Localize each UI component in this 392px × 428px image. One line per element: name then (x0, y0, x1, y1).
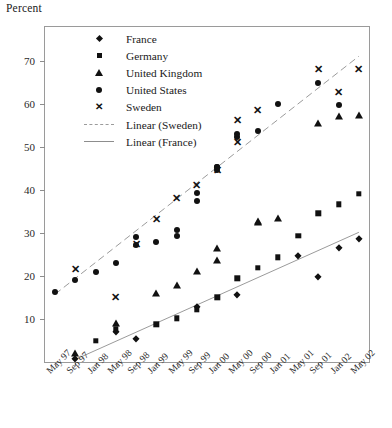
data-point-united-states (153, 239, 159, 245)
data-point-united-states (174, 227, 180, 233)
y-axis-tick (40, 104, 45, 105)
square-marker-icon (97, 53, 102, 58)
data-point-united-kingdom (173, 281, 181, 288)
data-point-germany (154, 322, 159, 327)
data-point-united-states (255, 128, 261, 134)
data-point-sweden: ✕ (354, 67, 363, 73)
data-point-sweden: ✕ (253, 108, 262, 114)
data-point-sweden: ✕ (172, 196, 181, 202)
legend-item-germany[interactable]: Germany (84, 47, 234, 64)
data-point-united-kingdom (213, 244, 221, 251)
data-point-united-kingdom (152, 289, 160, 296)
data-point-sweden: ✕ (132, 242, 141, 248)
x-marker-icon: ✕ (95, 103, 103, 111)
data-point-germany (113, 327, 118, 332)
y-axis-tick-label: 70 (5, 55, 35, 67)
y-axis-tick-label: 10 (5, 313, 35, 325)
data-point-sweden: ✕ (233, 140, 242, 146)
data-point-united-kingdom (355, 112, 363, 119)
data-point-united-states (113, 260, 119, 266)
legend-item-label: Linear (Sweden) (114, 119, 202, 131)
data-point-united-kingdom (254, 218, 262, 225)
y-axis-tick-label: 30 (5, 227, 35, 239)
data-point-united-states (93, 269, 99, 275)
y-axis-title: Percent (6, 2, 42, 14)
chart-root: Percent 10203040506070✕✕✕✕✕✕✕✕✕✕✕✕✕ Fran… (0, 0, 392, 428)
legend-item-label: France (114, 33, 157, 45)
data-point-germany (214, 294, 219, 299)
y-axis-tick-label: 60 (5, 98, 35, 110)
legend-item-label: United States (114, 84, 187, 96)
data-point-germany (316, 211, 321, 216)
data-point-united-states (234, 131, 240, 137)
legend-item-linear-sweden[interactable]: Linear (Sweden) (84, 116, 234, 133)
data-point-sweden: ✕ (314, 67, 323, 73)
data-point-sweden: ✕ (152, 217, 161, 223)
data-point-sweden: ✕ (111, 295, 120, 301)
solid-line-icon (84, 141, 114, 142)
data-point-sweden: ✕ (213, 168, 222, 174)
circle-marker-icon (96, 87, 102, 93)
data-point-germany (174, 315, 179, 320)
legend-item-label: Germany (114, 50, 168, 62)
y-axis-tick (40, 190, 45, 191)
legend-item-france[interactable]: France (84, 30, 234, 47)
y-axis-tick (40, 276, 45, 277)
y-axis-tick-label: 20 (5, 270, 35, 282)
data-point-united-kingdom (213, 257, 221, 264)
triangle-marker-icon (95, 69, 103, 76)
chart-legend: FranceGermanyUnited KingdomUnited States… (84, 30, 234, 150)
data-point-united-kingdom (335, 113, 343, 120)
data-point-united-states (174, 233, 180, 239)
data-point-united-kingdom (193, 267, 201, 274)
data-point-germany (356, 191, 361, 196)
legend-item-label: Linear (France) (114, 136, 197, 148)
y-axis-tick (40, 319, 45, 320)
data-point-united-states (275, 101, 281, 107)
legend-item-united-kingdom[interactable]: United Kingdom (84, 64, 234, 81)
data-point-united-states (315, 80, 321, 86)
data-point-sweden: ✕ (233, 118, 242, 124)
legend-item-linear-france[interactable]: Linear (France) (84, 133, 234, 150)
legend-item-label: Sweden (114, 101, 162, 113)
data-point-united-states (194, 198, 200, 204)
data-point-germany (255, 265, 260, 270)
legend-item-united-states[interactable]: United States (84, 82, 234, 99)
data-point-sweden: ✕ (71, 267, 80, 273)
data-point-sweden: ✕ (192, 183, 201, 189)
diamond-marker-icon (95, 35, 102, 42)
y-axis-tick (40, 233, 45, 234)
data-point-united-states (52, 289, 58, 295)
data-point-sweden: ✕ (334, 90, 343, 96)
y-axis-tick-label: 50 (5, 141, 35, 153)
data-point-germany (194, 307, 199, 312)
y-axis-tick (40, 61, 45, 62)
data-point-germany (295, 233, 300, 238)
data-point-united-kingdom (274, 214, 282, 221)
legend-item-label: United Kingdom (114, 67, 202, 79)
data-point-united-states (72, 277, 78, 283)
y-axis-tick (40, 147, 45, 148)
data-point-united-kingdom (314, 120, 322, 127)
data-point-united-states (336, 102, 342, 108)
data-point-united-kingdom (112, 320, 120, 327)
data-point-germany (336, 202, 341, 207)
data-point-germany (275, 255, 280, 260)
y-axis-tick-label: 40 (5, 184, 35, 196)
dashed-line-icon (84, 124, 114, 125)
data-point-germany (93, 338, 98, 343)
data-point-germany (235, 276, 240, 281)
legend-item-sweden[interactable]: ✕Sweden (84, 99, 234, 116)
